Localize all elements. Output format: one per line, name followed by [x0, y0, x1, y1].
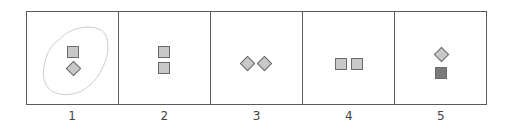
panel-label: 2: [118, 109, 210, 127]
panel-5[interactable]: [395, 12, 486, 104]
sequence-frame: [26, 11, 487, 105]
panel-label: 5: [395, 109, 487, 127]
square-icon: [158, 62, 170, 74]
panel-label: 1: [26, 109, 118, 127]
dark-square-icon: [435, 67, 447, 79]
panel-labels: 1 2 3 4 5: [26, 109, 487, 127]
panel-label: 4: [303, 109, 395, 127]
square-icon: [158, 46, 170, 58]
panel-2[interactable]: [119, 12, 211, 104]
diamond-icon: [257, 56, 273, 72]
square-icon: [335, 58, 347, 70]
panel-1[interactable]: [27, 12, 119, 104]
square-icon: [351, 58, 363, 70]
panel-3[interactable]: [211, 12, 303, 104]
circle-annotation-icon: [27, 12, 119, 104]
diamond-icon: [433, 47, 449, 63]
panel-label: 3: [210, 109, 302, 127]
panel-4[interactable]: [303, 12, 395, 104]
square-icon: [67, 46, 79, 58]
diamond-icon: [240, 56, 256, 72]
